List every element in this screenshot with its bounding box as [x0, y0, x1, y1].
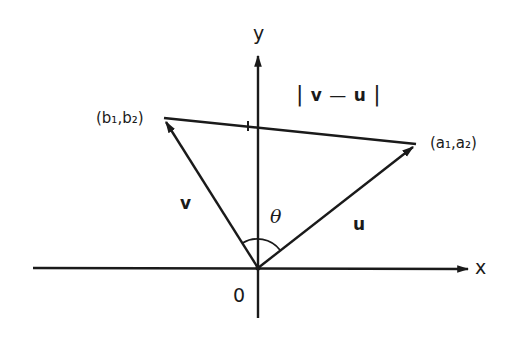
angle-theta-arc — [243, 239, 281, 250]
y-axis-label: y — [253, 24, 264, 43]
origin-point — [256, 266, 261, 271]
diff-v: v — [311, 85, 323, 105]
vector-u-label: u — [353, 216, 365, 233]
x-axis — [33, 268, 468, 269]
angle-theta-label: θ — [270, 207, 281, 226]
x-axis-label: x — [475, 258, 486, 277]
diff-u: u — [354, 85, 367, 105]
difference-segment — [164, 118, 416, 144]
difference-magnitude-label: | v — u | — [296, 83, 382, 105]
diff-minus: — — [329, 85, 347, 105]
diagram-canvas — [0, 0, 519, 337]
abs-bar-right: | — [373, 81, 381, 106]
abs-bar-left: | — [296, 81, 304, 106]
origin-label: 0 — [233, 286, 245, 305]
point-b-label: (b₁,b₂) — [96, 111, 144, 126]
vector-v-label: v — [180, 195, 191, 212]
point-a-label: (a₁,a₂) — [430, 136, 477, 151]
